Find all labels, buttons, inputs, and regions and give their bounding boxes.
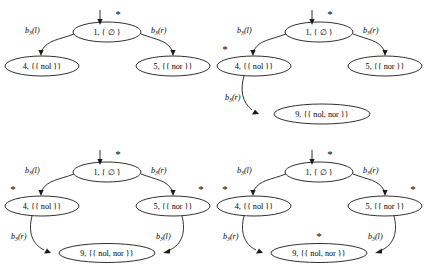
edge-1-4-line <box>42 34 74 50</box>
node-5-label: 5, {{ nor }} <box>154 202 193 211</box>
edge-1-5-arrowhead <box>170 50 175 56</box>
star-marker-node-4: * <box>222 43 228 55</box>
edge-1-5-line <box>141 34 172 50</box>
star-marker-node-1: * <box>115 8 121 20</box>
node-1-label: 1, { ∅ } <box>93 168 120 177</box>
edge-4-9-arrowhead <box>256 249 263 254</box>
edge-label-1-5: b3(r) <box>363 166 379 176</box>
edge-4-9-line <box>31 216 45 250</box>
node-1-label: 1, { ∅ } <box>305 168 332 177</box>
edge-1-5-arrowhead <box>382 190 387 196</box>
edge-1-4-line <box>42 174 74 190</box>
edge-1-4-arrowhead <box>250 50 255 56</box>
node-1-label: 1, { ∅ } <box>305 28 332 37</box>
node-9-label: 9, {{ nol, nor }} <box>292 249 346 258</box>
edge-4-9-arrowhead <box>252 110 259 115</box>
node-5-label: 5, {{ nor }} <box>366 62 405 71</box>
panel-bottom-left: 1, { ∅ } 4, {{ nol }} 5, {{ nor }} 9, {{… <box>0 140 212 279</box>
star-marker-node-1: * <box>327 148 333 160</box>
star-marker-node-1: * <box>115 148 121 160</box>
star-marker-node-5: * <box>410 183 416 195</box>
edge-1-4-arrowhead <box>38 190 43 196</box>
edge-5-9-line <box>382 216 396 250</box>
edge-label-1-5: b3(r) <box>151 166 167 176</box>
edge-label-4-9: b3(r) <box>11 232 27 242</box>
edge-4-9-line <box>242 76 252 110</box>
edge-label-5-9: b3(l) <box>156 232 171 242</box>
edge-5-9-arrowhead <box>163 249 170 254</box>
panel-bottom-right: 1, { ∅ } 4, {{ nol }} 5, {{ nor }} 9, {{… <box>212 140 424 279</box>
panel-top-right: 1, { ∅ } 4, {{ nol }} 5, {{ nor }} 9, {{… <box>212 0 424 139</box>
edge-5-9-line <box>170 216 184 250</box>
node-4-label: 4, {{ nol }} <box>235 202 274 211</box>
edge-label-1-5: b3(r) <box>151 26 167 36</box>
edge-label-1-4: b3(l) <box>25 166 40 176</box>
star-marker-node-1: * <box>327 8 333 20</box>
edge-label-4-9: b3(r) <box>223 232 239 242</box>
star-marker-node-4: * <box>222 183 228 195</box>
edge-1-4-arrowhead <box>38 50 43 56</box>
node-4-label: 4, {{ nol }} <box>23 202 62 211</box>
edge-label-5-9: b3(l) <box>368 232 383 242</box>
edge-1-5-arrowhead <box>382 50 387 56</box>
edge-4-9-arrowhead <box>44 249 51 254</box>
edge-1-5-arrowhead <box>170 190 175 196</box>
edge-label-4-9: b3(r) <box>225 93 241 103</box>
star-marker-node-5: * <box>198 183 204 195</box>
edge-1-5-line <box>353 174 384 190</box>
node-9-label: 9, {{ nol, nor }} <box>80 249 134 258</box>
edge-1-4-line <box>254 174 286 190</box>
edge-label-1-4: b3(l) <box>237 26 252 36</box>
edge-5-9-arrowhead <box>375 249 382 254</box>
edge-label-1-4: b3(l) <box>25 26 40 36</box>
edge-1-4-line <box>254 34 286 50</box>
node-5-label: 5, {{ nor }} <box>366 202 405 211</box>
node-9-label: 9, {{ nol, nor }} <box>295 110 349 119</box>
graph-figure: 1, { ∅ } 4, {{ nol }} 5, {{ nor }} b3(l)… <box>0 0 424 279</box>
node-4-label: 4, {{ nol }} <box>23 62 62 71</box>
edge-1-5-line <box>141 174 172 190</box>
node-4-label: 4, {{ nol }} <box>235 62 274 71</box>
node-5-label: 5, {{ nor }} <box>154 62 193 71</box>
edge-1-4-arrowhead <box>250 190 255 196</box>
star-marker-node-4: * <box>10 183 16 195</box>
edge-label-1-4: b3(l) <box>237 166 252 176</box>
edge-label-1-5: b3(r) <box>363 26 379 36</box>
edge-1-5-line <box>353 34 384 50</box>
star-marker-node-9: * <box>316 230 322 242</box>
edge-4-9-line <box>243 216 257 250</box>
panel-top-left: 1, { ∅ } 4, {{ nol }} 5, {{ nor }} b3(l)… <box>0 0 212 139</box>
node-1-label: 1, { ∅ } <box>93 28 120 37</box>
